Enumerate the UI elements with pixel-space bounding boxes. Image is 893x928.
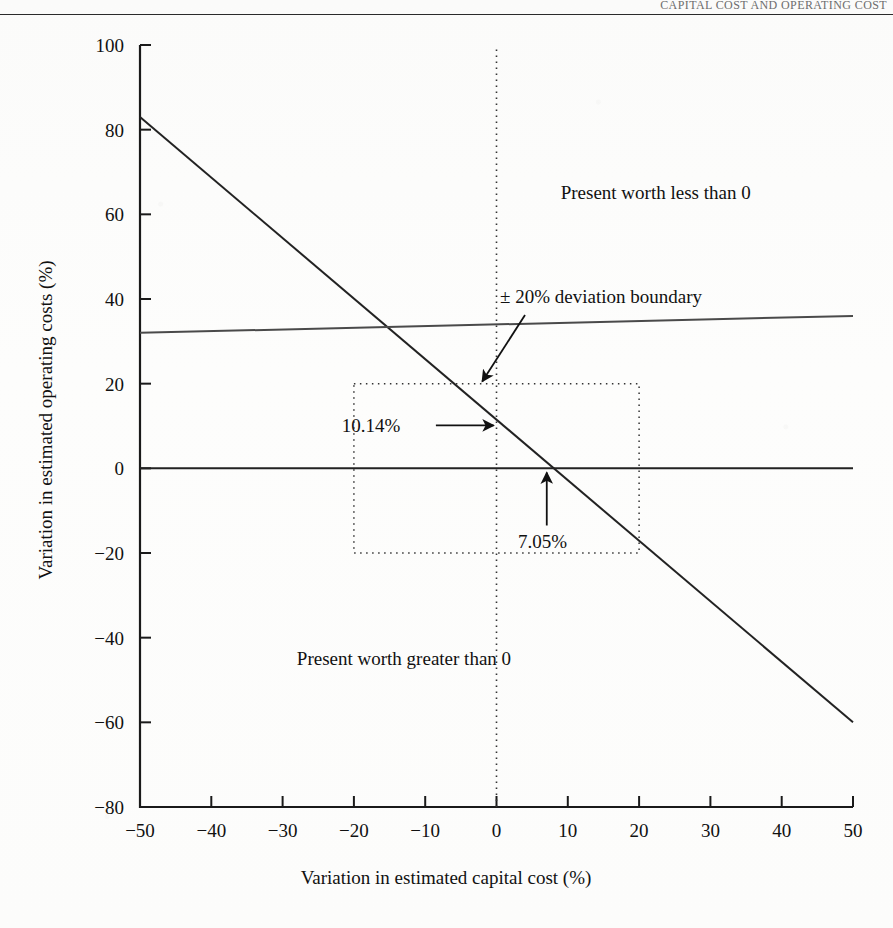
y-tick-label: −60 <box>94 712 124 733</box>
x-tick-label: −10 <box>410 820 440 841</box>
annotation-capital-cost-intercept: 7.05% <box>518 531 567 552</box>
y-axis-title: Variation in estimated operating costs (… <box>35 260 57 579</box>
x-tick-label: −20 <box>339 820 369 841</box>
chart-annotations: ± 20% deviation boundaryPresent worth le… <box>297 182 751 669</box>
x-axis-ticks <box>140 796 853 807</box>
x-tick-label: 20 <box>630 820 649 841</box>
chart-svg: −50−40−30−20−1001020304050 −80−60−40−200… <box>0 0 893 928</box>
x-tick-label: −50 <box>125 820 155 841</box>
annotation-present-worth-less-than-zero: Present worth less than 0 <box>561 182 751 203</box>
annotation-operating-cost-intercept: 10.14% <box>342 415 401 436</box>
y-tick-label: −40 <box>94 628 124 649</box>
series-deviation-boundary-line <box>140 316 853 333</box>
x-axis-tick-labels: −50−40−30−20−1001020304050 <box>125 820 862 841</box>
x-tick-label: 40 <box>772 820 791 841</box>
y-tick-label: 20 <box>105 374 124 395</box>
y-tick-label: 100 <box>96 35 125 56</box>
x-tick-label: 10 <box>558 820 577 841</box>
y-axis-ticks <box>140 45 151 807</box>
x-tick-label: −40 <box>196 820 226 841</box>
x-tick-label: 50 <box>844 820 863 841</box>
y-tick-label: −20 <box>94 543 124 564</box>
x-tick-label: 30 <box>701 820 720 841</box>
y-tick-label: 0 <box>115 458 125 479</box>
x-axis-title: Variation in estimated capital cost (%) <box>301 867 592 889</box>
y-axis-tick-labels: −80−60−40−20020406080100 <box>94 35 124 818</box>
y-tick-label: 60 <box>105 204 124 225</box>
y-tick-label: 80 <box>105 120 124 141</box>
annotation-present-worth-greater-than-zero: Present worth greater than 0 <box>297 648 511 669</box>
annotation-deviation-boundary: ± 20% deviation boundary <box>500 286 702 307</box>
chart-series-lines <box>140 45 853 807</box>
sensitivity-chart: −50−40−30−20−1001020304050 −80−60−40−200… <box>0 0 893 928</box>
x-tick-label: 0 <box>492 820 502 841</box>
y-tick-label: −80 <box>94 797 124 818</box>
x-tick-label: −30 <box>268 820 298 841</box>
y-tick-label: 40 <box>105 289 124 310</box>
